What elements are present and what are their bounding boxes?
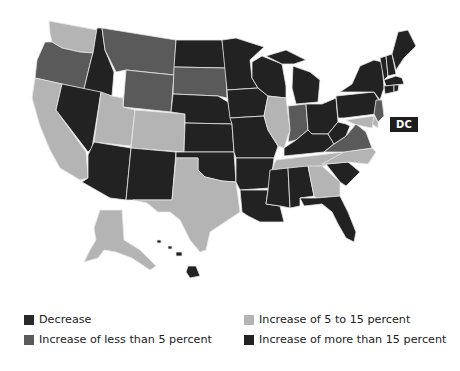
- state-HI: [186, 266, 200, 278]
- state-MI: [292, 66, 320, 104]
- dc-label: DC: [390, 117, 418, 132]
- us-choropleth-map: [0, 0, 460, 300]
- legend-item-decrease: Decrease: [24, 313, 91, 326]
- state-SD: [173, 67, 227, 98]
- state-FL: [300, 196, 356, 242]
- state-MT: [102, 28, 176, 75]
- state-CT: [384, 85, 394, 94]
- state-IA: [227, 88, 268, 118]
- state-ME: [392, 30, 416, 70]
- legend-label: Increase of less than 5 percent: [39, 333, 212, 346]
- legend-item-gt15: Increase of more than 15 percent: [244, 333, 446, 346]
- state-RI: [394, 85, 399, 92]
- legend-item-lt5: Increase of less than 5 percent: [24, 333, 212, 346]
- state-MS: [266, 168, 290, 208]
- legend-label: Decrease: [39, 313, 91, 326]
- state-HI-3: [168, 246, 172, 249]
- state-KS: [184, 123, 234, 152]
- state-NM: [126, 148, 176, 200]
- legend: Decrease Increase of less than 5 percent…: [24, 313, 444, 353]
- legend-swatch-gt15: [244, 335, 254, 345]
- state-PA: [336, 92, 380, 118]
- state-WY: [123, 70, 174, 112]
- state-CO: [131, 110, 185, 152]
- state-HI-4: [157, 240, 161, 243]
- legend-item-5to15: Increase of 5 to 15 percent: [244, 313, 410, 326]
- legend-label: Increase of 5 to 15 percent: [259, 313, 410, 326]
- state-HI-2: [176, 252, 182, 256]
- legend-swatch-lt5: [24, 335, 34, 345]
- state-ND: [174, 40, 226, 68]
- legend-swatch-decrease: [24, 315, 34, 325]
- legend-swatch-5to15: [244, 315, 254, 325]
- legend-label: Increase of more than 15 percent: [259, 333, 446, 346]
- state-AK: [84, 210, 156, 270]
